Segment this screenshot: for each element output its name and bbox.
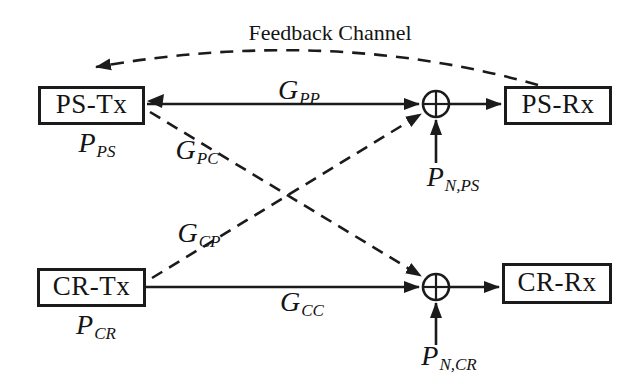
pncr-base: P [421, 340, 438, 371]
cr-rx-label: CR-Rx [517, 269, 596, 298]
gain-gpc-label: GPC [176, 136, 219, 164]
gpp-base: G [278, 74, 298, 105]
gpp-sub: PP [299, 89, 320, 108]
gcp-sub: CP [199, 232, 221, 251]
cr-rx-box: CR-Rx [502, 263, 612, 304]
system-model-figure: PS-Tx PS-Rx CR-Tx CR-Rx Feedback Channel… [0, 0, 643, 384]
ps-tx-label: PS-Tx [56, 91, 128, 120]
gcc-sub: CC [301, 301, 324, 320]
summation-node-cr [423, 274, 449, 300]
pnps-base: P [427, 161, 444, 192]
ps-rx-box: PS-Rx [504, 86, 612, 125]
gpc-sub: PC [197, 149, 219, 168]
summation-node-ps [423, 91, 449, 117]
pnps-sub: N,PS [445, 176, 479, 195]
ps-tx-box: PS-Tx [38, 86, 145, 125]
pncr-sub: N,CR [439, 355, 476, 374]
cr-tx-power-label: PCR [76, 311, 116, 339]
pcr-sub: CR [94, 324, 116, 343]
ps-tx-edge-arrowhead-icon [147, 94, 164, 108]
cr-tx-box: CR-Tx [37, 268, 146, 307]
pps-base: P [79, 127, 96, 158]
ps-tx-power-label: PPS [79, 129, 116, 157]
pcr-base: P [76, 309, 93, 340]
cr-tx-label: CR-Tx [53, 273, 131, 302]
gpc-base: G [176, 134, 196, 165]
noise-ps-label: PN,PS [427, 163, 480, 191]
gain-gcc-label: GCC [280, 288, 324, 316]
gcc-base: G [280, 286, 300, 317]
gcp-base: G [178, 217, 198, 248]
ps-rx-label: PS-Rx [521, 91, 594, 120]
pps-sub: PS [97, 142, 116, 161]
gain-gcp-label: GCP [178, 219, 221, 247]
gain-gpp-label: GPP [278, 76, 320, 104]
noise-cr-label: PN,CR [421, 342, 476, 370]
feedback-channel-label: Feedback Channel [248, 22, 411, 44]
